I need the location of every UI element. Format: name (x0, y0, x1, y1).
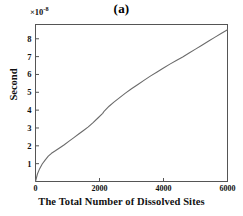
y-axis-tick-label: 4 (27, 105, 32, 115)
plot-frame (36, 25, 228, 182)
y-axis-tick-label: 8 (27, 34, 31, 44)
figure-panel-a: (a) ×10-8 Second The Total Number of Dis… (0, 0, 243, 216)
y-axis-tick-label: 5 (27, 87, 31, 97)
plot-frame-border (36, 25, 228, 182)
axis-tick-labels: 020004000600012345678 (27, 34, 235, 193)
axis-ticks (36, 39, 228, 182)
y-axis-tick-label: 2 (27, 141, 31, 151)
x-axis-tick-label: 2000 (92, 184, 108, 193)
data-line-elapsed-time (36, 30, 228, 182)
y-axis-tick-label: 7 (27, 52, 32, 62)
y-axis-tick-label: 1 (27, 159, 31, 169)
data-series-group (36, 30, 228, 182)
x-axis-tick-label: 6000 (220, 184, 236, 193)
x-axis-tick-label: 4000 (156, 184, 172, 193)
chart-plot-area: 020004000600012345678 (0, 0, 243, 216)
x-axis-tick-label: 0 (34, 184, 38, 193)
y-axis-tick-label: 3 (27, 123, 31, 133)
y-axis-tick-label: 6 (27, 69, 31, 79)
